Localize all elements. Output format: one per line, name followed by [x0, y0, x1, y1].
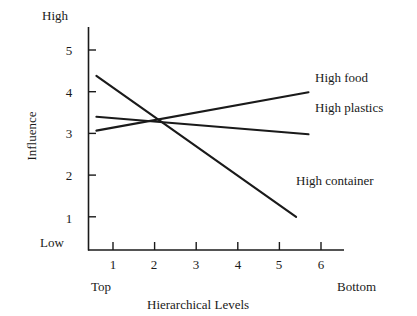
plot-area [0, 0, 417, 316]
series-line-high-container [96, 76, 296, 217]
chart-figure: High Low Influence 1 2 3 4 5 1 2 3 4 5 6… [0, 0, 417, 316]
x-axis-ticks [113, 242, 321, 250]
